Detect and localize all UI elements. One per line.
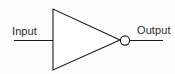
not-gate-triangle-body <box>53 9 120 70</box>
output-port-label: Output <box>137 24 171 37</box>
not-gate-diagram: Input Output <box>0 0 175 74</box>
inversion-bubble-icon <box>120 36 129 45</box>
input-port-label: Input <box>12 25 37 38</box>
